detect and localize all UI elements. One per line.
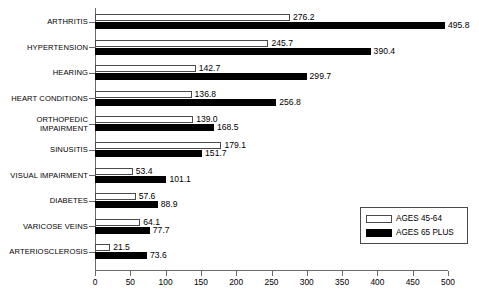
bar — [95, 193, 136, 200]
bar — [95, 142, 221, 149]
bar-value-label: 53.4 — [136, 167, 153, 176]
x-axis-tick — [166, 271, 167, 276]
x-axis-tick — [307, 271, 308, 276]
bar-value-label: 390.4 — [374, 47, 396, 56]
x-axis-tick — [377, 271, 378, 276]
legend-item-ages-45-64: AGES 45-64 — [366, 214, 442, 223]
bar-value-label: 136.8 — [195, 90, 217, 99]
category-label: ARTHRITIS — [47, 17, 88, 26]
bar — [95, 219, 140, 226]
category-label: HEARING — [53, 68, 88, 77]
category-label: HYPERTENSION — [27, 43, 88, 52]
bar — [95, 73, 307, 80]
x-axis-tick — [236, 271, 237, 276]
bar — [95, 150, 202, 157]
bar — [95, 116, 193, 123]
bar-value-label: 73.6 — [150, 251, 167, 260]
bar-value-label: 299.7 — [310, 72, 332, 81]
x-axis-tick-label: 100 — [146, 277, 186, 287]
category-label: ORTHOPEDIC IMPAIRMENT — [37, 115, 89, 133]
category-label: VARICOSE VEINS — [23, 222, 88, 231]
bar-value-label: 495.8 — [448, 21, 470, 30]
bar — [95, 91, 192, 98]
x-axis-tick — [272, 271, 273, 276]
bar — [95, 252, 147, 259]
x-axis-tick-label: 400 — [357, 277, 397, 287]
legend-label-ages-45-64: AGES 45-64 — [396, 214, 442, 223]
category-label: ARTERIOSCLEROSIS — [9, 247, 88, 256]
bar — [95, 40, 268, 47]
legend-swatch-dark — [366, 229, 392, 237]
bar-value-label: 77.7 — [153, 226, 170, 235]
bar-value-label: 168.5 — [217, 123, 239, 132]
bar-value-label: 21.5 — [113, 243, 130, 252]
bar — [95, 124, 214, 131]
bar — [95, 176, 166, 183]
x-axis-tick-label: 250 — [252, 277, 292, 287]
legend-swatch-light — [366, 215, 392, 223]
bar — [95, 48, 371, 55]
x-axis-tick-label: 200 — [216, 277, 256, 287]
bar-value-label: 256.8 — [279, 98, 301, 107]
category-label: SINUSITIS — [50, 145, 88, 154]
bar-value-label: 88.9 — [161, 200, 178, 209]
chart-legend: AGES 45-64 AGES 65 PLUS — [360, 207, 468, 244]
bar — [95, 168, 133, 175]
bar — [95, 244, 110, 251]
x-axis-tick — [201, 271, 202, 276]
bar — [95, 99, 276, 106]
x-axis-tick-label: 300 — [287, 277, 327, 287]
bar-value-label: 245.7 — [271, 39, 293, 48]
bar-value-label: 276.2 — [293, 13, 315, 22]
x-axis-tick — [95, 271, 96, 276]
x-axis-tick — [448, 271, 449, 276]
bar-value-label: 57.6 — [139, 192, 156, 201]
bar-value-label: 139.0 — [196, 115, 218, 124]
bar — [95, 65, 196, 72]
legend-label-ages-65-plus: AGES 65 PLUS — [396, 228, 454, 237]
category-label: VISUAL IMPAIRMENT — [10, 171, 88, 180]
bar-chart: 050100150200250300350400450500 ARTHRITIS… — [0, 0, 479, 295]
x-axis-tick — [130, 271, 131, 276]
category-label: HEART CONDITIONS — [11, 94, 88, 103]
bar-value-label: 142.7 — [199, 64, 221, 73]
x-axis-tick-label: 0 — [75, 277, 115, 287]
category-label: DIABETES — [50, 196, 88, 205]
x-axis-tick-label: 450 — [393, 277, 433, 287]
x-axis-tick-label: 50 — [110, 277, 150, 287]
x-axis-tick-label: 500 — [428, 277, 468, 287]
x-axis-tick-label: 150 — [181, 277, 221, 287]
bar-value-label: 151.7 — [205, 149, 227, 158]
bar — [95, 227, 150, 234]
bar — [95, 14, 290, 21]
x-axis-tick-label: 350 — [322, 277, 362, 287]
bar-value-label: 101.1 — [169, 175, 191, 184]
bar — [95, 22, 445, 29]
x-axis-tick — [413, 271, 414, 276]
x-axis-tick — [342, 271, 343, 276]
bar — [95, 201, 158, 208]
legend-item-ages-65-plus: AGES 65 PLUS — [366, 228, 454, 237]
bar-value-label: 179.1 — [224, 141, 246, 150]
